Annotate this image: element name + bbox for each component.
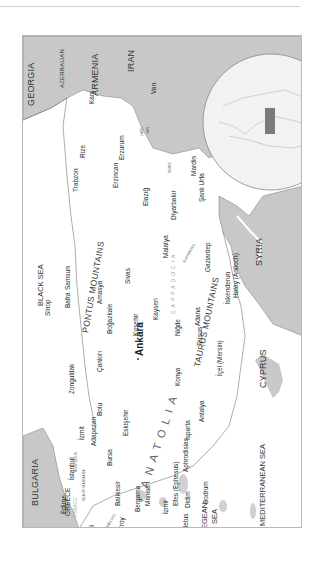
city-bolu: Bolu — [97, 403, 104, 416]
city-izmit: İzmit — [79, 426, 86, 440]
city-balikesir: Balıkesir — [115, 481, 122, 506]
label-thrace: THRACE — [73, 497, 78, 518]
city-samsun: Samsun — [65, 266, 72, 290]
city-sivas: Sivas — [125, 268, 132, 284]
label-tigris: TIGRIS — [169, 162, 173, 174]
city-kayseri: Kayseri — [153, 298, 160, 320]
city-aphrodisias: Aphrodisias — [183, 438, 190, 472]
city-miletus: Miletus — [183, 513, 190, 528]
label-iran: IRAN — [127, 50, 136, 72]
city-bursa: Bursa — [107, 449, 114, 466]
city-van: Van — [151, 83, 158, 94]
city-troy: Troy — [119, 517, 126, 528]
city-malatya: Malatya — [163, 235, 170, 258]
city-diyarbakir: Diyarbakır — [171, 190, 178, 220]
city-kars: Kars — [89, 91, 96, 104]
city-bergama: Bergama — [135, 486, 142, 512]
label-mediterranean-sea: MEDITERRANEAN SEA — [259, 444, 267, 526]
city-adana: Adana — [195, 307, 202, 326]
city-sanliurfa: Şanlı Urfa — [199, 173, 206, 202]
city-bodrum: Bodrum — [203, 481, 210, 504]
city-erzurum: Erzurum — [119, 135, 126, 160]
label-syria: SYRIA — [255, 238, 264, 266]
city-edirne: Edirne — [61, 495, 68, 514]
city-trabzon: Trabzon — [73, 168, 80, 192]
city-rize: Rize — [80, 145, 87, 158]
city-izmir: İzmir — [163, 500, 170, 514]
city-elazig: Elazığ — [143, 188, 150, 206]
label-bosporus: BOSPORUS — [75, 452, 79, 472]
label-lake: LAKE — [141, 127, 145, 136]
city-konya: Konya — [175, 368, 182, 386]
label-sea-of-marmara: SEA OF MARMARA — [83, 469, 87, 501]
label-azerbaijan: AZERBAIJAN — [59, 49, 65, 88]
city-manisa: Manisa — [145, 485, 152, 506]
city-amasya: Amasya — [97, 281, 104, 304]
city-efes: Efes (Ephesus) — [173, 462, 180, 506]
city-didim: Didim — [185, 491, 192, 508]
label-cyprus: CYPRUS — [259, 349, 268, 388]
city-zonguldak: Zonguldak — [69, 364, 76, 394]
label-cappadocia: CAPPADOCIA — [171, 252, 176, 314]
city-cankiri: Çankırı — [97, 351, 104, 372]
city-istanbul: İstanbul — [69, 457, 76, 480]
city-hatay: Hatay (Antioch) — [233, 253, 240, 298]
city-nigde: Niğde — [175, 319, 182, 336]
city-kirsehir: Kırşehir — [133, 314, 140, 336]
label-aegean-sea: SEA — [211, 509, 219, 524]
city-icel: İçel (Mersin) — [217, 340, 224, 376]
city-tarsus: Tarsus — [197, 327, 204, 346]
label-van-lake: VAN — [147, 127, 151, 134]
capital-dot — [137, 358, 139, 360]
city-erzincan: Erzincan — [113, 163, 120, 188]
label-armenia: ARMENIA — [91, 54, 100, 96]
label-georgia: GEORGIA — [27, 63, 36, 106]
map-frame: GEORGIA AZERBAIJAN ARMENIA IRAN SYRIA CY… — [22, 35, 302, 528]
city-mardin: Mardin — [191, 156, 198, 176]
city-iskenderun: İskenderun — [225, 272, 232, 304]
city-gallipoli: Gallipoli — [89, 525, 96, 528]
city-adapazari: Adapazarı — [91, 416, 98, 446]
city-sinop: Sinop — [45, 299, 52, 316]
city-gaziantep: Gaziantep — [205, 242, 212, 272]
label-bulgaria: BULGARIA — [31, 459, 40, 506]
city-antalya: Antalya — [199, 400, 206, 422]
city-bafra: Bafra — [65, 292, 72, 308]
city-eskisehir: Eskişehir — [123, 410, 130, 436]
top-rule — [0, 6, 300, 7]
label-aegean: AEGEAN — [201, 503, 209, 528]
city-bogazkale: Boğazkale — [107, 304, 114, 334]
